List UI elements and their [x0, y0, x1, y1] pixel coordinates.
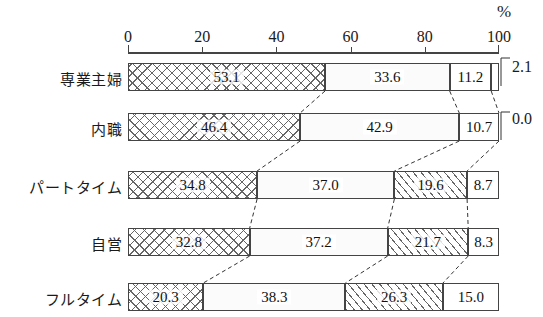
x-tick-mark-20: [202, 47, 203, 53]
axis-unit-label: %: [497, 2, 511, 22]
bar-segment: 32.8: [128, 228, 250, 256]
connector-lines-overlay: [0, 0, 543, 317]
category-label-2: 内職: [91, 118, 122, 139]
segment-value-label: 33.6: [374, 70, 400, 85]
bar-row: 46.442.910.7: [128, 113, 499, 141]
bar-segment: 10.7: [459, 113, 499, 141]
segment-value-label: 38.3: [261, 290, 287, 305]
category-label-4: 自営: [91, 233, 122, 254]
bar-segment: 15.0: [443, 283, 499, 311]
stacked-bar-chart: % 020406080100 専業主婦内職パートタイム自営フルタイム 53.13…: [0, 0, 543, 317]
segment-value-label: 11.2: [458, 70, 484, 85]
bar-row: 53.133.611.2: [128, 63, 499, 91]
x-tick-label-60: 60: [343, 28, 359, 46]
bar-row: 34.837.019.68.7: [128, 171, 499, 199]
bar-segment: 21.7: [388, 228, 469, 256]
bar-segment: 34.8: [128, 171, 257, 199]
x-tick-mark-60: [351, 47, 352, 53]
bar-segment: 8.7: [467, 171, 499, 199]
segment-value-label: 32.8: [176, 235, 202, 250]
bar-segment: 19.6: [394, 171, 467, 199]
segment-value-label: 21.7: [415, 235, 441, 250]
x-tick-mark-100: [498, 45, 499, 53]
x-tick-mark-40: [276, 47, 277, 53]
x-tick-label-100: 100: [487, 28, 511, 46]
segment-value-label: 34.8: [179, 178, 205, 193]
category-label-1: 専業主婦: [60, 68, 122, 89]
bar-row: 20.338.326.315.0: [128, 283, 499, 311]
bar-segment: 37.0: [257, 171, 394, 199]
x-tick-label-40: 40: [268, 28, 284, 46]
segment-value-label: 8.3: [474, 235, 493, 250]
segment-value-label: 15.0: [458, 290, 484, 305]
x-tick-mark-0: [128, 45, 129, 53]
segment-value-label: 37.2: [306, 235, 332, 250]
segment-value-label: 37.0: [313, 178, 339, 193]
segment-value-label: 46.4: [201, 120, 227, 135]
side-annotation-2: 0.0: [512, 110, 532, 128]
bar-segment: 42.9: [300, 113, 459, 141]
bar-segment: 37.2: [250, 228, 388, 256]
x-tick-label-80: 80: [417, 28, 433, 46]
bar-segment: 20.3: [128, 283, 203, 311]
segment-value-label: 42.9: [367, 120, 393, 135]
bar-segment: 11.2: [450, 63, 492, 91]
x-tick-label-20: 20: [194, 28, 210, 46]
side-annotation-1: 2.1: [512, 58, 532, 76]
x-tick-label-0: 0: [124, 28, 132, 46]
segment-value-label: 26.3: [381, 290, 407, 305]
bar-segment: 46.4: [128, 113, 300, 141]
category-label-3: パートタイム: [29, 176, 122, 197]
bar-segment: 8.3: [468, 228, 499, 256]
x-axis-line: [128, 52, 499, 54]
segment-value-label: 10.7: [466, 120, 492, 135]
segment-value-label: 20.3: [153, 290, 179, 305]
x-tick-mark-80: [425, 47, 426, 53]
bar-segment: 53.1: [128, 63, 325, 91]
segment-value-label: 8.7: [474, 178, 493, 193]
bar-segment: [491, 63, 499, 91]
bar-segment: 26.3: [345, 283, 443, 311]
bar-row: 32.837.221.78.3: [128, 228, 499, 256]
segment-value-label: 19.6: [418, 178, 444, 193]
bar-segment: 38.3: [203, 283, 345, 311]
bar-segment: 33.6: [325, 63, 450, 91]
category-label-5: フルタイム: [45, 288, 123, 309]
segment-value-label: 53.1: [213, 70, 239, 85]
segment-pattern-fill: [492, 64, 498, 90]
